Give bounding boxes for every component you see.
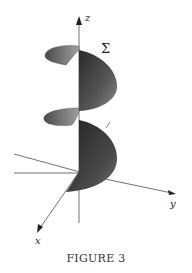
surface-upper-right-lobe <box>79 50 117 111</box>
z-axis-label: z <box>85 13 90 23</box>
surface-label-sigma: Σ <box>101 42 110 55</box>
surface-upper-left-fin <box>45 45 79 65</box>
helicoid-diagram <box>0 0 192 273</box>
x-axis-label: x <box>35 236 41 246</box>
x-axis <box>37 172 79 233</box>
surface-lower-right-lobe <box>66 120 117 192</box>
y-axis-label: y <box>170 199 176 209</box>
surface-middle-left-fin <box>44 108 79 126</box>
figure-caption: FIGURE 3 <box>0 252 192 265</box>
